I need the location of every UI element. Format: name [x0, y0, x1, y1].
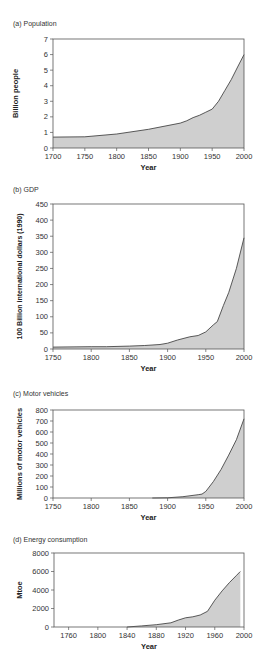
x-tick-label: 1760 [60, 631, 77, 640]
y-tick-label: 4000 [32, 586, 49, 595]
y-tick-label: 6000 [32, 567, 49, 576]
x-axis-label: Year [141, 642, 157, 651]
x-tick-label: 1840 [119, 631, 136, 640]
y-tick-label: 0 [45, 623, 49, 632]
energy-chart: 0200040006000800017601800184018801920196… [0, 0, 271, 668]
x-tick-label: 1880 [148, 631, 165, 640]
y-axis-label: Mtoe [15, 581, 24, 599]
y-tick-label: 2000 [32, 604, 49, 613]
x-tick-label: 1960 [206, 631, 223, 640]
x-tick-label: 1800 [90, 631, 107, 640]
x-tick-label: 1920 [177, 631, 194, 640]
chart-panel-energy: (d) Energy consumption 02000400060008000… [0, 0, 271, 668]
x-tick-label: 2000 [236, 631, 253, 640]
y-tick-label: 8000 [32, 549, 49, 558]
